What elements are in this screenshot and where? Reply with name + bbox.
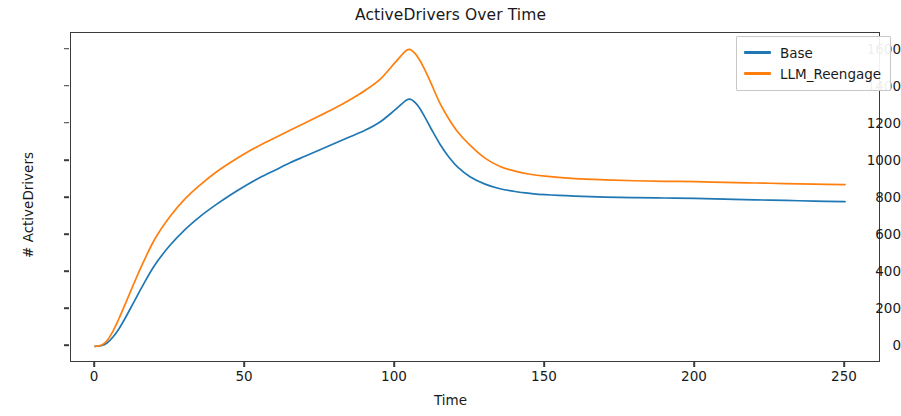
y-tick-mark xyxy=(64,307,69,309)
legend-swatch-llm-reengage xyxy=(744,72,771,74)
y-tick-mark xyxy=(64,122,69,124)
y-tick-mark xyxy=(64,233,69,235)
chart-title: ActiveDrivers Over Time xyxy=(0,6,901,24)
x-tick-label: 250 xyxy=(814,368,874,384)
x-tick-mark xyxy=(693,362,695,367)
x-tick-label: 200 xyxy=(664,368,724,384)
x-axis-label: Time xyxy=(0,392,901,408)
line-series-llm-reengage xyxy=(95,49,845,346)
matplotlib-figure: ActiveDrivers Over Time 0200400600800100… xyxy=(0,0,901,416)
y-tick-label: 800 xyxy=(845,189,901,205)
legend-label-llm-reengage: LLM_Reengage xyxy=(780,66,881,82)
y-tick-label: 1200 xyxy=(845,115,901,131)
y-tick-mark xyxy=(64,196,69,198)
x-tick-mark xyxy=(93,362,95,367)
y-tick-mark xyxy=(64,48,69,50)
x-tick-mark xyxy=(243,362,245,367)
y-tick-label: 400 xyxy=(845,263,901,279)
x-tick-mark xyxy=(393,362,395,367)
legend-item-base[interactable]: Base xyxy=(744,42,881,63)
x-tick-label: 100 xyxy=(364,368,424,384)
y-tick-mark xyxy=(64,345,69,347)
x-tick-mark xyxy=(843,362,845,367)
y-tick-label: 600 xyxy=(845,226,901,242)
legend-label-base: Base xyxy=(780,45,813,61)
legend-item-llm-reengage[interactable]: LLM_Reengage xyxy=(744,63,881,84)
y-tick-mark xyxy=(64,85,69,87)
y-tick-label: 0 xyxy=(845,337,901,353)
chart-legend: Base LLM_Reengage xyxy=(736,36,891,91)
legend-swatch-base xyxy=(744,51,771,53)
y-tick-mark xyxy=(64,159,69,161)
x-tick-mark xyxy=(543,362,545,367)
x-tick-label: 50 xyxy=(214,368,274,384)
x-tick-label: 150 xyxy=(514,368,574,384)
y-tick-label: 200 xyxy=(845,300,901,316)
line-series-base xyxy=(95,99,845,346)
x-tick-label: 0 xyxy=(64,368,124,384)
y-tick-label: 1000 xyxy=(845,152,901,168)
y-axis-label: # ActiveDrivers xyxy=(20,85,36,325)
y-tick-mark xyxy=(64,270,69,272)
